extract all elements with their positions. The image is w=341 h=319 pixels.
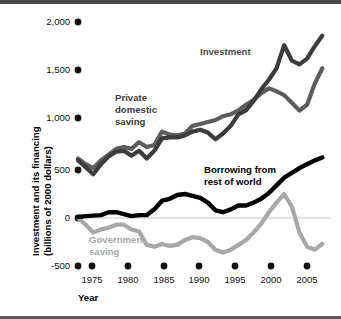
x-tick-dot-1980 xyxy=(125,263,132,270)
y-tick-label-0: 0 xyxy=(65,212,70,223)
x-tick-label-2005: 2005 xyxy=(296,274,317,285)
x-tick-dot-1975 xyxy=(89,263,96,270)
annotation-borrow-line1: Borrowing from xyxy=(204,164,276,175)
y-tick-label-neg500: -500 xyxy=(51,260,70,271)
x-axis-title: Year xyxy=(78,292,99,303)
y-tick-label-2000: 2,000 xyxy=(46,16,70,27)
y-tick-label-500: 500 xyxy=(54,164,70,175)
x-tick-dot-2005 xyxy=(304,263,311,270)
y-tick-label-1500: 1,500 xyxy=(46,64,70,75)
x-tick-label-1980: 1980 xyxy=(117,274,138,285)
x-tick-dot-2000 xyxy=(268,263,275,270)
chart-figure: 2,000 1,500 1,000 500 0 -500 1975 1980 1… xyxy=(0,0,341,319)
annotation-borrow-line2: rest of world xyxy=(204,176,262,187)
x-tick-dot-1985 xyxy=(161,263,168,270)
x-tick-label-1975: 1975 xyxy=(81,274,102,285)
line-chart-plot: 2,000 1,500 1,000 500 0 -500 1975 1980 1… xyxy=(0,0,341,319)
x-tick-label-2000: 2000 xyxy=(260,274,281,285)
annotation-private-line2: domestic xyxy=(115,104,158,115)
series-line-borrowing-from-rest-of-world xyxy=(78,158,322,218)
y-tick-dot-2000 xyxy=(75,19,82,26)
annotation-investment: Investment xyxy=(200,46,251,57)
annotation-private-line3: saving xyxy=(115,116,146,127)
annotation-govt-line1: Government xyxy=(89,234,146,245)
annotation-govt-line2: saving xyxy=(89,246,120,257)
y-tick-dot-1000 xyxy=(75,115,82,122)
x-tick-dot-1995 xyxy=(232,263,239,270)
annotation-private-line1: Private xyxy=(115,92,147,103)
y-tick-label-1000: 1,000 xyxy=(46,112,70,123)
annotation-government-saving: Government saving xyxy=(89,234,146,257)
annotation-borrowing-from-rest-of-world: Borrowing from rest of world xyxy=(204,164,276,187)
x-tick-label-1990: 1990 xyxy=(188,274,209,285)
y-tick-dot-500 xyxy=(75,167,82,174)
y-tick-dot-1500 xyxy=(75,67,82,74)
x-axis-ticks: 1975 1980 1985 1990 1995 2000 2005 xyxy=(81,263,317,285)
y-tick-dot-neg500 xyxy=(75,263,82,270)
x-tick-label-1985: 1985 xyxy=(153,274,174,285)
x-tick-dot-1990 xyxy=(196,263,203,270)
y-axis-title-line1: Investment and its financing xyxy=(30,126,41,256)
y-axis-title-line2: (billions of 2000 dollars) xyxy=(42,146,53,256)
annotation-private-domestic-saving: Private domestic saving xyxy=(115,92,158,127)
x-tick-label-1995: 1995 xyxy=(224,274,245,285)
